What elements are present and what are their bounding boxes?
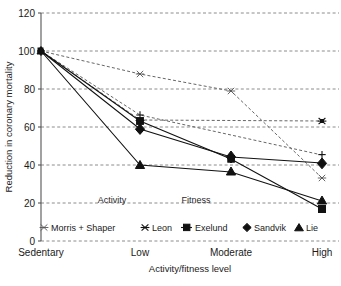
annotation-activity: Activity (98, 195, 127, 205)
y-axis-title: Reduction in coronary mortality (3, 61, 14, 192)
series-morris-line (41, 51, 322, 178)
marker-sandvik-high (317, 158, 326, 169)
x-tick-label-high: High (312, 247, 333, 258)
y-tick-label-120: 120 (18, 8, 35, 19)
marker-shaper-high (318, 151, 325, 158)
markers-high (317, 118, 326, 213)
y-tick-label-0: 0 (29, 236, 35, 247)
gridlines (41, 13, 339, 241)
coronary-mortality-line-chart: 120 100 80 60 40 20 0 Reduction in coron… (0, 0, 341, 286)
series-lie (41, 51, 322, 201)
x-axis: Sedentary Low Moderate High (18, 247, 332, 258)
marker-leon-high (318, 118, 327, 124)
legend-marker-sandvik-icon (243, 223, 251, 231)
markers-low (135, 71, 144, 169)
marker-exelund-high (319, 206, 326, 213)
series-exelund (41, 51, 322, 209)
y-axis: 120 100 80 60 40 20 0 (18, 8, 41, 247)
legend-marker-leon-icon (141, 224, 150, 230)
y-tick-label-60: 60 (24, 122, 36, 133)
legend-label-leon: Leon (152, 223, 172, 233)
x-axis-title: Activity/fitness level (149, 263, 231, 274)
annotation-fitness: Fitness (181, 195, 211, 205)
series-leon-line (41, 51, 322, 121)
series-shaper-line (41, 51, 322, 155)
series-morris (41, 51, 322, 178)
x-tick-label-low: Low (131, 247, 150, 258)
legend-label-lie: Lie (306, 223, 318, 233)
chart-container: 120 100 80 60 40 20 0 Reduction in coron… (0, 0, 341, 286)
legend-marker-exelund-icon (181, 224, 192, 230)
markers-sedentary (37, 47, 45, 56)
legend-label-sandvik: Sandvik (254, 223, 287, 233)
markers-moderate (226, 88, 235, 175)
series-sandvik-line (41, 51, 322, 163)
series-leon (41, 51, 322, 121)
y-tick-label-40: 40 (24, 160, 36, 171)
y-tick-label-80: 80 (24, 84, 36, 95)
legend-marker-lie-icon (295, 224, 304, 231)
marker-sandvik-low (135, 124, 144, 134)
marker-morris-low (136, 71, 144, 77)
legend-label-morris-shaper: Morris + Shaper (51, 223, 115, 233)
chart-legend: Morris + Shaper Leon Exelund Sandvik Lie (40, 223, 318, 233)
marker-lie-moderate (226, 167, 235, 175)
y-tick-label-20: 20 (24, 198, 36, 209)
series-exelund-line (41, 51, 322, 209)
marker-morris-high (318, 175, 326, 181)
x-tick-label-sedentary: Sedentary (18, 247, 64, 258)
legend-label-exelund: Exelund (195, 223, 228, 233)
x-tick-label-moderate: Moderate (210, 247, 253, 258)
series-lie-line (41, 51, 322, 201)
series-shaper (41, 51, 322, 155)
series-sandvik (41, 51, 322, 163)
y-tick-label-100: 100 (18, 46, 35, 57)
